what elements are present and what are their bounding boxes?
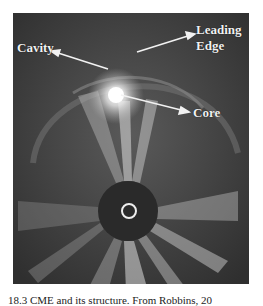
label-core: Core xyxy=(193,106,220,120)
cme-coronagraph-image: Cavity Leading Edge Core xyxy=(13,13,249,284)
label-leading-edge-line2: Edge xyxy=(196,39,224,53)
figure-caption: 18.3 CME and its structure. From Robbins… xyxy=(8,294,212,306)
occulter-disc xyxy=(98,181,158,241)
label-cavity: Cavity xyxy=(17,41,54,55)
label-leading-edge-line1: Leading xyxy=(196,23,242,37)
